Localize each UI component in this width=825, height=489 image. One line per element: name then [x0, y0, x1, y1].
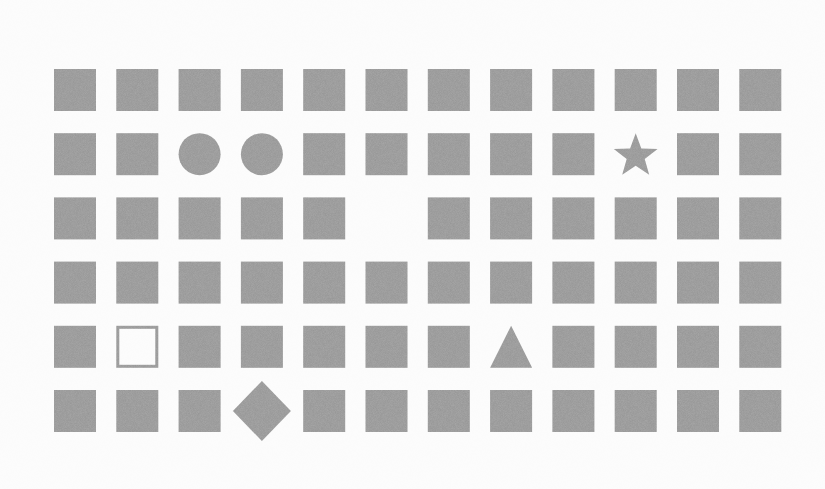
- cell-r2-c7-square[interactable]: [428, 133, 470, 175]
- cell-r4-c11-square[interactable]: [677, 262, 719, 304]
- cell-r1-c10-square[interactable]: [615, 69, 657, 111]
- cell-r1-c11-square[interactable]: [677, 69, 719, 111]
- cell-r1-c2-square[interactable]: [116, 69, 158, 111]
- cell-r5-c3-square[interactable]: [179, 326, 221, 368]
- cell-r3-c3-square[interactable]: [179, 197, 221, 239]
- cell-r6-c7-square[interactable]: [428, 390, 470, 432]
- cell-r3-c7-square[interactable]: [428, 197, 470, 239]
- cell-r3-c9-square[interactable]: [552, 197, 594, 239]
- cell-r4-c7-square[interactable]: [428, 262, 470, 304]
- cell-r2-c9-square[interactable]: [552, 133, 594, 175]
- cell-r2-c4-circle[interactable]: [241, 133, 283, 175]
- cell-r4-c3-square[interactable]: [179, 262, 221, 304]
- cell-r2-c1-square[interactable]: [54, 133, 96, 175]
- cell-r6-c2-square[interactable]: [116, 390, 158, 432]
- cell-r1-c8-square[interactable]: [490, 69, 532, 111]
- cell-r3-c8-square[interactable]: [490, 197, 532, 239]
- cell-r3-c1-square[interactable]: [54, 197, 96, 239]
- cell-r1-c6-square[interactable]: [366, 69, 408, 111]
- cell-r5-c12-square[interactable]: [739, 326, 781, 368]
- cell-r1-c5-square[interactable]: [303, 69, 345, 111]
- cell-r3-c6-empty[interactable]: [366, 197, 408, 239]
- cell-r1-c4-square[interactable]: [241, 69, 283, 111]
- cell-r6-c1-square[interactable]: [54, 390, 96, 432]
- cell-r2-c2-square[interactable]: [116, 133, 158, 175]
- cell-r6-c11-square[interactable]: [677, 390, 719, 432]
- cell-r1-c7-square[interactable]: [428, 69, 470, 111]
- cell-r3-c10-square[interactable]: [615, 197, 657, 239]
- cell-r3-c4-square[interactable]: [241, 197, 283, 239]
- cell-r5-c7-square[interactable]: [428, 326, 470, 368]
- cell-r4-c9-square[interactable]: [552, 262, 594, 304]
- cell-r1-c9-square[interactable]: [552, 69, 594, 111]
- cell-r2-c11-square[interactable]: [677, 133, 719, 175]
- cell-r6-c12-square[interactable]: [739, 390, 781, 432]
- cell-r5-c4-square[interactable]: [241, 326, 283, 368]
- cell-r2-c8-square[interactable]: [490, 133, 532, 175]
- shape-grid-canvas: [0, 0, 825, 489]
- cell-r6-c6-square[interactable]: [366, 390, 408, 432]
- cell-r4-c6-square[interactable]: [366, 262, 408, 304]
- cell-r5-c10-square[interactable]: [615, 326, 657, 368]
- cell-r3-c11-square[interactable]: [677, 197, 719, 239]
- cell-r4-c4-square[interactable]: [241, 262, 283, 304]
- cell-r4-c2-square[interactable]: [116, 262, 158, 304]
- cell-r4-c5-square[interactable]: [303, 262, 345, 304]
- cell-r6-c5-square[interactable]: [303, 390, 345, 432]
- cell-r2-c6-square[interactable]: [366, 133, 408, 175]
- cell-r5-c9-square[interactable]: [552, 326, 594, 368]
- cell-r2-c5-square[interactable]: [303, 133, 345, 175]
- cell-r4-c1-square[interactable]: [54, 262, 96, 304]
- cell-r6-c9-square[interactable]: [552, 390, 594, 432]
- cell-r4-c10-square[interactable]: [615, 262, 657, 304]
- cell-r5-c11-square[interactable]: [677, 326, 719, 368]
- cell-r6-c3-square[interactable]: [179, 390, 221, 432]
- cell-r3-c5-square[interactable]: [303, 197, 345, 239]
- cell-r5-c1-square[interactable]: [54, 326, 96, 368]
- cell-r3-c12-square[interactable]: [739, 197, 781, 239]
- cell-r6-c10-square[interactable]: [615, 390, 657, 432]
- cell-r2-c3-circle[interactable]: [179, 133, 221, 175]
- cell-r1-c3-square[interactable]: [179, 69, 221, 111]
- cell-r4-c8-square[interactable]: [490, 262, 532, 304]
- cell-r1-c12-square[interactable]: [739, 69, 781, 111]
- cell-r6-c8-square[interactable]: [490, 390, 532, 432]
- cell-r2-c12-square[interactable]: [739, 133, 781, 175]
- cell-r5-c6-square[interactable]: [366, 326, 408, 368]
- cell-r3-c2-square[interactable]: [116, 197, 158, 239]
- cell-r1-c1-square[interactable]: [54, 69, 96, 111]
- cell-r5-c5-square[interactable]: [303, 326, 345, 368]
- cell-r4-c12-square[interactable]: [739, 262, 781, 304]
